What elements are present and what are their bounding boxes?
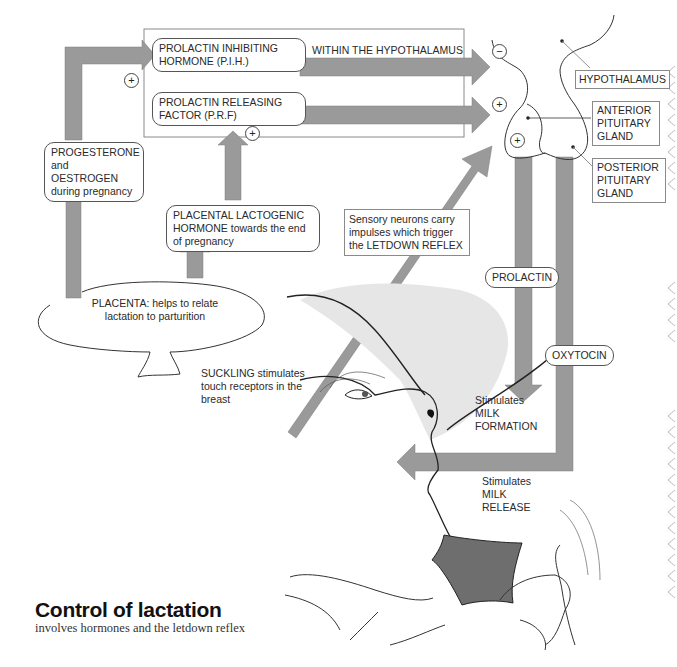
plus-sign-prf: + [245, 126, 260, 141]
anterior-pituitary-label: ANTERIOR PITUITARY GLAND [592, 101, 660, 146]
posterior-pituitary-label: POSTERIOR PITUITARY GLAND [592, 158, 666, 203]
milk-release-label: Stimulates MILK RELEASE [482, 475, 542, 514]
page-edge-decoration [668, 66, 675, 598]
milk-formation-label: Stimulates MILK FORMATION [475, 394, 545, 433]
prf-to-hypothalamus-arrow [300, 97, 490, 133]
page-subtitle: involves hormones and the letdown reflex [35, 621, 245, 636]
hypothalamus-label: HYPOTHALAMUS [575, 70, 670, 89]
progesterone-to-pih-arrow [65, 40, 155, 140]
plh-to-prf-arrow [218, 131, 248, 200]
sensory-neurons-label: Sensory neurons carry impulses which tri… [344, 209, 470, 256]
plus-sign-pituitary: + [510, 133, 525, 148]
prolactin-label: PROLACTIN [485, 267, 559, 288]
minus-sign-hypothalamus: − [492, 44, 507, 59]
baby-arm-outline [285, 575, 445, 645]
mother-fingers-outline [560, 500, 600, 580]
plus-sign-hypothalamus: + [492, 97, 507, 112]
suckling-label: SUCKLING stimulates touch receptors in t… [201, 367, 313, 406]
page-title: Control of lactation [35, 598, 222, 622]
diagram-artwork [0, 0, 677, 667]
prf-label: PROLACTIN RELEASING FACTOR (P.R.F) [152, 92, 306, 126]
pih-label: PROLACTIN INHIBITING HORMONE (P.I.H.) [152, 38, 306, 72]
oxytocin-label: OXYTOCIN [545, 345, 614, 366]
anterior-lobe-outline [527, 104, 545, 153]
plus-sign-progesterone: + [124, 73, 139, 88]
progesterone-oestrogen-label: PROGESTERONE and OESTROGEN during pregna… [44, 142, 144, 202]
placental-lactogenic-label: PLACENTAL LACTOGENIC HORMONE towards the… [166, 205, 320, 252]
baby-neck-shaded [432, 535, 522, 605]
placenta-label: PLACENTA: helps to relate lactation to p… [90, 297, 220, 323]
within-hypothalamus-label: WITHIN THE HYPOTHALAMUS [312, 44, 463, 57]
